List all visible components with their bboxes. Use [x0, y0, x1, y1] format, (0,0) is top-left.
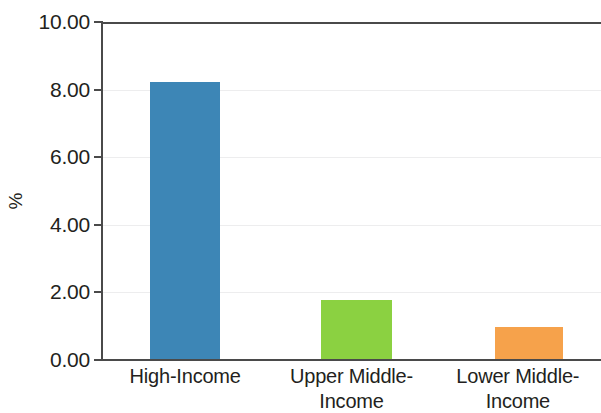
y-tick-0	[94, 359, 103, 361]
bar-upper-middle-income	[321, 300, 392, 360]
y-tick-6	[94, 156, 103, 158]
plot-area	[102, 22, 601, 360]
x-label-lower-middle-income: Lower Middle- Income	[435, 364, 601, 413]
y-tick-8	[94, 89, 103, 91]
gridline-10	[102, 22, 601, 24]
x-label-high-income: High-Income	[102, 364, 268, 413]
x-axis-labels: High-Income Upper Middle- Income Lower M…	[102, 364, 601, 413]
y-tick-4	[94, 224, 103, 226]
y-tick-label-10: 10.00	[4, 10, 90, 34]
y-tick-label-8: 8.00	[4, 78, 90, 102]
y-tick-10	[94, 21, 103, 23]
bar-chart: 10.00 8.00 6.00 4.00 2.00 0.00 % High-In…	[0, 0, 601, 413]
y-tick-2	[94, 291, 103, 293]
bar-high-income	[150, 82, 220, 360]
y-axis-title: %	[5, 193, 27, 210]
y-tick-label-2: 2.00	[4, 280, 90, 304]
bar-lower-middle-income	[495, 327, 563, 361]
y-axis-line	[101, 22, 103, 361]
y-tick-label-4: 4.00	[4, 213, 90, 237]
y-tick-label-6: 6.00	[4, 145, 90, 169]
y-tick-label-0: 0.00	[4, 348, 90, 372]
x-axis-line	[95, 359, 601, 361]
x-label-upper-middle-income: Upper Middle- Income	[268, 364, 434, 413]
